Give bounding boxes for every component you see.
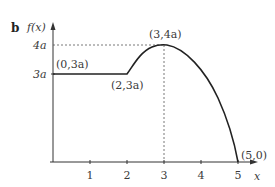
annotation-5-0: (5,0)	[241, 149, 267, 162]
function-graph: b f(x) x 1 2 3 4 5 4a 3a (0,3a) (2,3a) (…	[0, 0, 275, 187]
panel-label: b	[11, 21, 19, 35]
x-tick-label-4: 4	[198, 169, 205, 182]
x-tick-label-1: 1	[87, 169, 94, 182]
x-axis-label: x	[254, 170, 261, 183]
x-tick-label-2: 2	[124, 169, 131, 182]
y-tick-label-4a: 4a	[32, 39, 47, 52]
y-axis-arrow-icon	[51, 22, 56, 30]
y-axis-label: f(x)	[26, 21, 46, 34]
x-tick-label-3: 3	[161, 169, 168, 182]
y-tick-label-3a: 3a	[33, 68, 47, 81]
annotation-0-3a: (0,3a)	[56, 58, 89, 71]
annotation-2-3a: (2,3a)	[111, 79, 144, 92]
annotation-3-4a: (3,4a)	[149, 28, 182, 41]
x-tick-label-5: 5	[235, 169, 242, 182]
